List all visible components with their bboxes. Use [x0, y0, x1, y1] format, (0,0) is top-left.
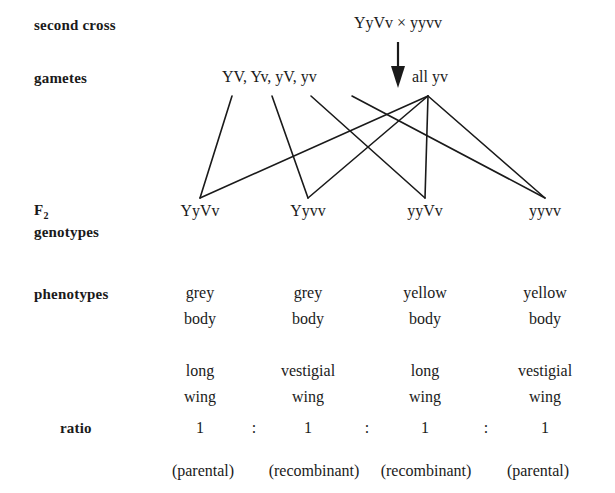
phenotype-wing-type-4: vestigial [518, 362, 572, 380]
classification-4: (parental) [507, 462, 569, 480]
phenotype-body-color-3: yellow [403, 284, 447, 302]
phenotype-body-word-1: body [184, 310, 216, 328]
ratio-separator-2: : [365, 419, 369, 437]
f2-genotype-1: YyVv [180, 202, 219, 220]
gamete-line-YV [200, 96, 232, 198]
phenotype-body-color-2: grey [294, 284, 322, 302]
gametes-left-value: YV, Yv, yV, yv [222, 68, 317, 86]
phenotype-wing-type-2: vestigial [281, 362, 335, 380]
classification-3: (recombinant) [381, 462, 472, 480]
ratio-value-1: 1 [196, 419, 204, 437]
row-label-f2: F2 [34, 202, 49, 221]
row-label-phenotypes: phenotypes [34, 286, 109, 303]
phenotype-wing-word-3: wing [409, 388, 441, 406]
downward-arrow-icon [391, 42, 405, 88]
row-label-ratio: ratio [60, 420, 92, 437]
phenotype-wing-type-1: long [186, 362, 214, 380]
second-cross-value: YyVv × yyvv [354, 14, 442, 32]
phenotype-wing-type-3: long [411, 362, 439, 380]
phenotype-wing-word-4: wing [529, 388, 561, 406]
f2-genotype-2: Yyvv [290, 202, 326, 220]
phenotype-body-word-4: body [529, 310, 561, 328]
ratio-value-4: 1 [541, 419, 549, 437]
genetics-diagram-canvas: second cross YyVv × yyvv gametes YV, Yv,… [0, 0, 615, 493]
f2-label-subscript: 2 [43, 210, 48, 221]
allyv-line-1 [200, 96, 428, 198]
row-label-genotypes: genotypes [34, 224, 99, 241]
phenotype-body-word-3: body [409, 310, 441, 328]
row-label-gametes: gametes [34, 70, 87, 87]
ratio-value-2: 1 [304, 419, 312, 437]
gamete-line-yV [311, 96, 425, 198]
ratio-separator-3: : [484, 419, 488, 437]
phenotype-wing-word-1: wing [184, 388, 216, 406]
row-label-second-cross: second cross [34, 17, 116, 34]
gamete-line-Yv [272, 96, 308, 198]
allyv-line-3 [425, 96, 428, 198]
allyv-line-4 [428, 96, 545, 198]
classification-1: (parental) [172, 462, 234, 480]
classification-2: (recombinant) [269, 462, 360, 480]
phenotype-wing-word-2: wing [292, 388, 324, 406]
f2-genotype-4: yyvv [529, 202, 561, 220]
ratio-separator-1: : [252, 419, 256, 437]
allyv-line-2 [308, 96, 428, 198]
ratio-value-3: 1 [421, 419, 429, 437]
phenotype-body-word-2: body [292, 310, 324, 328]
f2-label-letter: F [34, 202, 43, 218]
phenotype-body-color-1: grey [186, 284, 214, 302]
phenotype-body-color-4: yellow [523, 284, 567, 302]
gametes-right-value: all yv [412, 68, 448, 86]
gamete-line-yv [352, 96, 545, 198]
f2-genotype-3: yyVv [407, 202, 443, 220]
